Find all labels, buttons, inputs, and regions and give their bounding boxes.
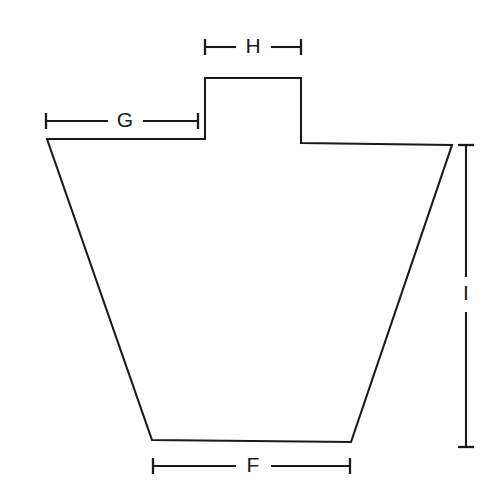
dimension-g: G — [46, 108, 198, 131]
dimension-g-label: G — [117, 108, 133, 131]
dimension-i: I — [458, 145, 474, 447]
dimension-f-label: F — [247, 453, 260, 476]
part-outline-shape — [47, 78, 452, 442]
dimension-h-label: H — [245, 34, 260, 57]
part-outline-drawing: H G I F — [0, 0, 497, 503]
dimension-f: F — [153, 453, 350, 476]
technical-drawing-canvas: H G I F — [0, 0, 497, 503]
dimension-i-label: I — [463, 281, 469, 304]
dimension-h: H — [205, 34, 301, 57]
